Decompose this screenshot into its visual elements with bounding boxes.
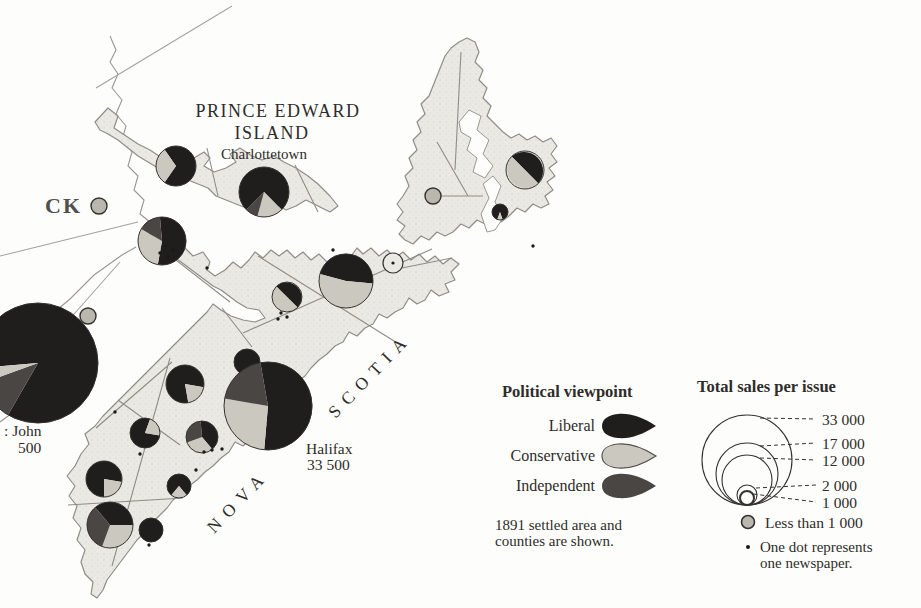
viewpoint-symbols bbox=[602, 414, 755, 549]
newspaper-dot bbox=[391, 261, 394, 264]
newspaper-dot bbox=[202, 450, 205, 453]
sales-legend-graphics bbox=[702, 415, 816, 505]
pie-sydney-south bbox=[492, 204, 508, 220]
newspaper-dot bbox=[331, 248, 334, 251]
sales-value-label: 2 000 bbox=[822, 477, 857, 495]
newspaper-dot bbox=[113, 410, 116, 413]
newspaper-dot bbox=[147, 543, 150, 546]
pie-pei-west bbox=[156, 146, 196, 186]
one-dot-note-line1: One dot represents bbox=[760, 539, 872, 556]
independent-label: Independent bbox=[498, 477, 602, 495]
one-dot-icon bbox=[746, 545, 750, 549]
newspaper-dot bbox=[171, 248, 174, 251]
pie-bridgewater bbox=[130, 418, 160, 448]
sales-legend-title: Total sales per issue bbox=[697, 377, 836, 397]
less-than-1000-label: Less than 1 000 bbox=[765, 514, 863, 532]
less-than-1000-icon bbox=[742, 516, 755, 529]
saint-john-label: : John bbox=[4, 423, 41, 439]
newspaper-dot bbox=[279, 311, 282, 314]
map-plate: PRINCE EDWARDISLANDCharlottetownCK: John… bbox=[0, 0, 921, 608]
newspaper-dot bbox=[158, 251, 161, 254]
ring-leader-line bbox=[760, 443, 816, 446]
newspaper-dot bbox=[194, 468, 197, 471]
less-than-1000-circle bbox=[80, 308, 96, 324]
settled-area-note-line1: 1891 settled area and bbox=[495, 517, 622, 534]
conservative-label: Conservative bbox=[498, 447, 602, 465]
newspaper-dot bbox=[138, 452, 141, 455]
newspaper-dot bbox=[220, 447, 223, 450]
sales-value-label: 17 000 bbox=[822, 435, 865, 453]
sales-value-label: 1 000 bbox=[822, 494, 857, 512]
new-brunswick-partial: CK bbox=[45, 194, 82, 217]
newspaper-dot bbox=[210, 448, 213, 451]
newspaper-dot bbox=[276, 317, 279, 320]
less-than-1000-circle bbox=[91, 198, 107, 214]
sales-ring-1000 bbox=[740, 491, 754, 505]
pie-lunenburg bbox=[167, 474, 191, 498]
ring-leader-line bbox=[760, 418, 816, 419]
pie-windsor bbox=[166, 365, 204, 403]
pie-halifax bbox=[224, 362, 312, 450]
newspaper-dot bbox=[164, 244, 167, 247]
sales-ring-12000 bbox=[722, 455, 772, 505]
halifax-label: Halifax bbox=[306, 441, 352, 457]
one-dot-note-line2: one newspaper. bbox=[760, 555, 852, 572]
pie-shelburne bbox=[86, 461, 122, 497]
pei-name-line1: PRINCE EDWARD bbox=[195, 102, 360, 121]
liberal-label: Liberal bbox=[498, 417, 602, 435]
charlottetown-label: Charlottetown bbox=[221, 147, 307, 163]
newspaper-dot bbox=[205, 266, 208, 269]
newspaper-dot bbox=[285, 315, 288, 318]
pei-name-line2: ISLAND bbox=[235, 124, 310, 143]
sales-value-label: 33 000 bbox=[822, 411, 865, 429]
ring-leader-line bbox=[760, 458, 816, 460]
liberal-symbol-icon bbox=[602, 414, 656, 438]
pie-sydney bbox=[506, 151, 544, 189]
less-than-1000-circle bbox=[425, 188, 441, 204]
settled-area-note-line2: counties are shown. bbox=[495, 533, 614, 550]
viewpoint-legend-title: Political viewpoint bbox=[502, 382, 633, 402]
pie-liverpool bbox=[186, 421, 218, 453]
pie-pictou bbox=[319, 254, 373, 308]
independent-symbol-icon bbox=[602, 474, 656, 498]
newspaper-dot bbox=[166, 255, 169, 258]
halifax-sales: 33 500 bbox=[307, 457, 350, 473]
saint-john-sales: 500 bbox=[18, 440, 41, 456]
pie-cumberland bbox=[138, 217, 186, 265]
newspaper-dot bbox=[531, 244, 534, 247]
pie-barrington bbox=[139, 518, 163, 542]
pie-yarmouth bbox=[87, 502, 133, 548]
pie-charlottetown bbox=[239, 167, 289, 217]
sales-value-label: 12 000 bbox=[822, 452, 865, 470]
ring-leader-line bbox=[756, 485, 816, 488]
conservative-symbol-icon bbox=[602, 444, 656, 468]
pie-tatamagouche bbox=[272, 282, 302, 312]
